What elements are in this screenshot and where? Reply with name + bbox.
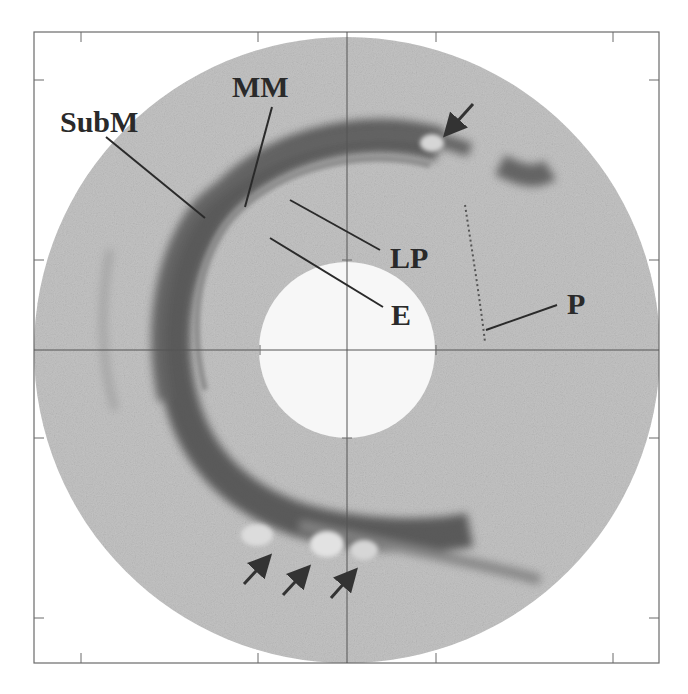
ivus-figure: SubM MM LP E P bbox=[0, 0, 688, 694]
label-lp: LP bbox=[390, 241, 428, 274]
label-mm: MM bbox=[232, 70, 289, 103]
label-p: P bbox=[567, 287, 585, 320]
label-subm: SubM bbox=[60, 105, 138, 138]
label-e: E bbox=[391, 298, 411, 331]
